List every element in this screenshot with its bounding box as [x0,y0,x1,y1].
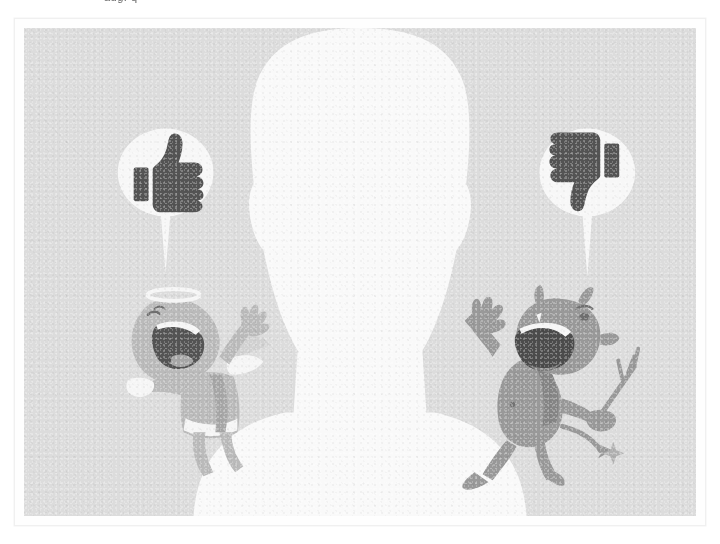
illustration-canvas [24,28,696,516]
illustration-artwork [24,28,696,516]
clipped-text-fragment: aug. q [104,0,138,3]
grain-overlay [24,28,696,516]
photo-frame [14,18,706,526]
top-clipped-artifact: aug. q [0,0,720,14]
